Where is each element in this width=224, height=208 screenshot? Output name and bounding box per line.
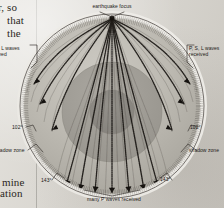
label-many-p-waves-received: many P waves received [62,196,166,202]
seismic-ray-diagram [0,0,224,208]
label-right-waves-received: P, S, L waves received [189,45,224,58]
label-earthquake-focus: earthquake focus [76,3,148,9]
label-shadow-zone-right: shadow zone [189,147,219,153]
label-angle-102-right: 102° [190,124,201,130]
label-angle-143-right: 143° [160,176,171,182]
label-shadow-zone-left: hadow zone [0,147,24,153]
label-angle-143-left: 143° [41,177,52,183]
label-left-waves-received: , S, L waves ceived [0,45,38,58]
label-angle-102-left: 102° [12,124,23,130]
